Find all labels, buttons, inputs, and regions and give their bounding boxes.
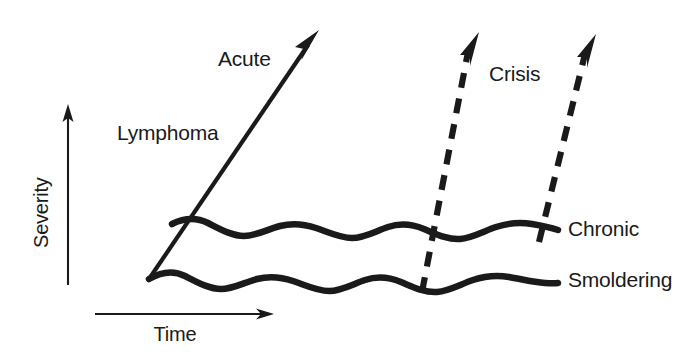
- crisis-arrow-1-head-icon: [460, 32, 479, 66]
- smoldering-wavy-line: [149, 272, 558, 292]
- lymphoma-label: Lymphoma: [117, 121, 219, 144]
- smoldering-label: Smoldering: [568, 268, 672, 291]
- chronic-course-group: Chronic: [172, 217, 639, 240]
- crisis-arrow-2-group: [539, 34, 596, 242]
- acute-arrow-shaft: [149, 45, 308, 279]
- crisis-arrow-1-shaft: [422, 52, 468, 292]
- diagram-canvas: Severity Time Chronic Smoldering: [0, 0, 696, 359]
- x-axis-label: Time: [154, 323, 197, 345]
- y-axis-label: Severity: [30, 177, 52, 248]
- chronic-label: Chronic: [568, 217, 639, 240]
- chronic-wavy-line: [172, 219, 558, 239]
- crisis-label: Crisis: [489, 62, 540, 85]
- acute-label: Acute: [218, 47, 271, 70]
- y-axis-group: Severity: [30, 104, 74, 285]
- crisis-arrow-1-group: [422, 32, 479, 292]
- smoldering-course-group: Smoldering: [149, 268, 672, 292]
- crisis-arrow-2-shaft: [539, 54, 585, 242]
- clinical-course-diagram: Severity Time Chronic Smoldering: [0, 0, 696, 359]
- x-axis-group: Time: [95, 309, 274, 346]
